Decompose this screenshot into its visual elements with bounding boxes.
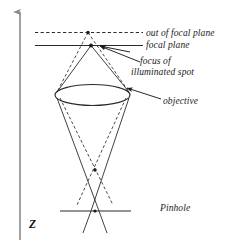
label-z-axis: Z xyxy=(29,218,36,230)
label-focus-spot-line2: illuminated spot xyxy=(131,67,194,78)
focus-spot-leader-arrow xyxy=(100,46,140,62)
label-objective: objective xyxy=(163,96,198,107)
lower-ray-solid-right xyxy=(91,98,129,211)
upper-ray-dashed-right xyxy=(88,33,129,93)
defocused-crossing-point xyxy=(93,168,96,171)
lower-ray-solid-left-extension xyxy=(99,211,107,233)
lower-ray-dashed-left xyxy=(60,98,113,205)
confocal-diagram-figure: out of focal plane focal plane focus of … xyxy=(0,0,232,245)
objective-leader-arrow xyxy=(127,88,161,99)
label-focal-plane: focal plane xyxy=(146,40,190,51)
label-focus-of-illuminated-spot: focus of illuminated spot xyxy=(140,56,194,78)
lower-ray-dashed-right xyxy=(77,98,126,205)
label-focus-spot-line1: focus of xyxy=(140,56,171,66)
label-pinhole: Pinhole xyxy=(160,203,190,214)
focus-spot-leader-arrow-2 xyxy=(100,46,130,52)
objective-lens-ellipse xyxy=(55,85,130,106)
label-out-of-focal-plane: out of focal plane xyxy=(146,28,215,39)
lower-ray-solid-left xyxy=(57,98,99,211)
focal-plane-focus-point xyxy=(89,44,93,48)
lower-ray-solid-right-extension xyxy=(83,211,91,233)
out-of-focal-plane-point xyxy=(86,31,89,34)
pinhole-aperture-point xyxy=(93,209,96,212)
upper-ray-dashed-left xyxy=(57,33,88,93)
